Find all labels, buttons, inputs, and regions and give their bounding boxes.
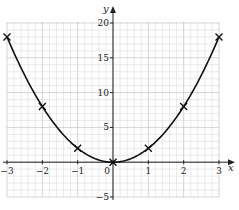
svg-text:0: 0 — [104, 166, 110, 176]
x-axis-label: x — [228, 162, 234, 173]
svg-text:3: 3 — [216, 166, 222, 176]
svg-text:−3: −3 — [0, 166, 14, 176]
svg-text:−1: −1 — [71, 166, 84, 176]
svg-text:15: 15 — [98, 53, 110, 63]
svg-text:−2: −2 — [36, 166, 49, 176]
svg-text:2: 2 — [181, 166, 187, 176]
tick-labels: −3−2−10123−55101520 — [0, 18, 222, 202]
y-axis-label: y — [102, 3, 109, 14]
svg-text:5: 5 — [103, 122, 109, 132]
svg-text:1: 1 — [145, 166, 151, 176]
svg-text:10: 10 — [98, 88, 110, 98]
svg-text:20: 20 — [98, 18, 110, 28]
svg-text:−5: −5 — [96, 192, 110, 202]
chart: −3−2−10123−55101520 x y — [0, 0, 239, 210]
